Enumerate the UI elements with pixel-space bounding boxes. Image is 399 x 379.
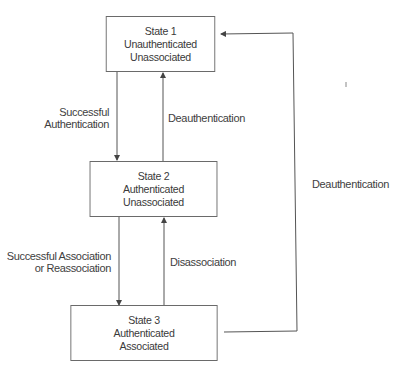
state-diagram: State 1 Unauthenticated Unassociated Sta… (0, 0, 399, 379)
state-3-box: State 3 Authenticated Associated (70, 305, 217, 361)
label-line: Deauthentication (168, 112, 245, 124)
label-line: Deauthentication (312, 178, 389, 190)
state-2-assoc: Unassociated (123, 196, 184, 209)
state-2-box: State 2 Authenticated Unassociated (90, 161, 218, 217)
label-deauthentication-2-to-1: Deauthentication (168, 112, 245, 124)
state-3-assoc: Associated (119, 340, 168, 353)
state-1-box: State 1 Unauthenticated Unassociated (106, 16, 215, 72)
state-1-title: State 1 (145, 25, 177, 38)
state-3-auth: Authenticated (113, 327, 174, 340)
state-2-auth: Authenticated (123, 183, 184, 196)
label-successful-association: Successful Association or Reassociation (7, 250, 111, 274)
label-disassociation: Disassociation (170, 256, 236, 268)
state-3-title: State 3 (128, 314, 160, 327)
label-line: Successful Association (7, 250, 111, 262)
label-line: Successful (44, 106, 109, 118)
arrow-state3-to-state1 (221, 33, 297, 332)
state-1-auth: Unauthenticated (124, 38, 197, 51)
state-1-assoc: Unassociated (130, 51, 191, 64)
label-deauthentication-3-to-1: Deauthentication (312, 178, 389, 190)
state-2-title: State 2 (138, 170, 170, 183)
label-line: Disassociation (170, 256, 236, 268)
label-line: Authentication (44, 118, 109, 130)
label-line: or Reassociation (7, 262, 111, 274)
label-successful-authentication: Successful Authentication (44, 106, 109, 130)
